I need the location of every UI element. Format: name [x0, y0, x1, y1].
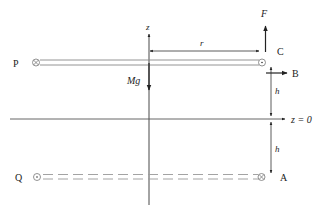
- z-axis-label: z: [145, 22, 150, 32]
- label-f: F: [260, 8, 268, 19]
- lower-rod-dashed: [43, 175, 258, 180]
- z0-label: z = 0: [290, 114, 312, 125]
- label-h-upper: h: [275, 86, 280, 96]
- label-h-lower: h: [275, 144, 280, 154]
- z0-label-text: z = 0: [290, 114, 312, 125]
- label-r: r: [200, 38, 204, 48]
- label-c: C: [277, 46, 284, 57]
- a-into-page-icon: [258, 174, 265, 181]
- diagram-canvas: z z = 0 P C r F Mg h h: [0, 0, 324, 212]
- q-out-of-page-icon: [34, 174, 41, 181]
- label-a: A: [280, 172, 288, 183]
- label-q: Q: [15, 172, 23, 183]
- label-p: P: [13, 58, 19, 69]
- c-out-of-page-icon: [259, 59, 266, 66]
- p-into-page-icon: [33, 59, 40, 66]
- label-b: B: [292, 68, 299, 79]
- label-mg: Mg: [126, 75, 140, 86]
